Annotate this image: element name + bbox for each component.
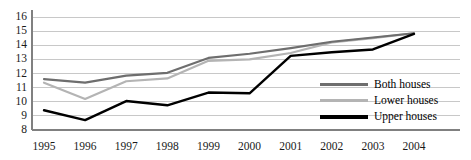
x-tick-label: 2000	[228, 141, 272, 153]
x-tick-label: 2002	[310, 141, 354, 153]
legend-swatch-icon	[320, 83, 368, 86]
legend-item: Lower houses	[316, 93, 466, 109]
x-tick-label: 1999	[186, 141, 230, 153]
y-tick-label: 11	[16, 82, 27, 94]
y-tick-label: 12	[16, 68, 28, 80]
x-tick-label: 2001	[269, 141, 313, 153]
x-tick-label: 2003	[351, 141, 395, 153]
x-tick-label: 2004	[392, 141, 436, 153]
x-tick-label: 1998	[145, 141, 189, 153]
y-tick-label: 13	[16, 53, 28, 65]
x-tick-label: 1995	[22, 141, 66, 153]
y-tick-label: 14	[16, 39, 28, 51]
legend-item-label: Lower houses	[374, 94, 438, 106]
legend-item: Upper houses	[316, 109, 466, 125]
legend-item-label: Both houses	[374, 78, 431, 90]
y-tick-label: 16	[16, 11, 28, 23]
y-tick-label: 15	[16, 25, 28, 37]
x-tick-label: 1996	[63, 141, 107, 153]
y-tick-label: 8	[21, 124, 27, 136]
y-tick-label: 9	[21, 110, 27, 122]
x-tick-label: 1997	[104, 141, 148, 153]
legend-swatch-icon	[320, 99, 368, 102]
line-chart: 8910111213141516 19951996199719981999200…	[0, 0, 471, 160]
legend-item: Both houses	[316, 77, 466, 93]
y-tick-label: 10	[16, 96, 28, 108]
chart-legend: Both housesLower housesUpper houses	[316, 77, 466, 125]
legend-swatch-icon	[320, 115, 368, 119]
legend-item-label: Upper houses	[374, 110, 437, 122]
